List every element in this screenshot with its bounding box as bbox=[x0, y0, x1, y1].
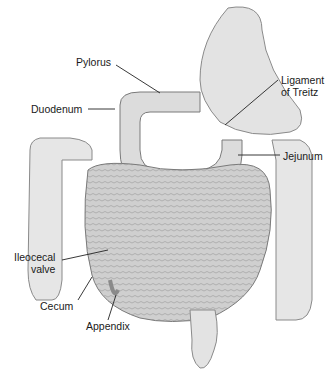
label-ligament-line2: of Treitz bbox=[281, 86, 324, 98]
label-ileocecal-valve: Ileocecal valve bbox=[14, 251, 55, 275]
label-duodenum: Duodenum bbox=[31, 103, 82, 115]
label-appendix: Appendix bbox=[86, 320, 130, 332]
stomach bbox=[200, 7, 302, 135]
label-pylorus: Pylorus bbox=[76, 56, 111, 68]
label-cecum: Cecum bbox=[40, 300, 73, 312]
anatomy-illustration bbox=[0, 0, 336, 375]
small-intestine bbox=[85, 163, 271, 321]
colon bbox=[28, 138, 92, 300]
label-ligament-line1: Ligament bbox=[281, 74, 324, 86]
label-jejunum: Jejunum bbox=[283, 150, 323, 162]
label-ileocecal-line1: Ileocecal bbox=[14, 251, 55, 263]
label-ligament-of-treitz: Ligament of Treitz bbox=[281, 74, 324, 98]
descending-colon bbox=[272, 140, 312, 320]
rectum bbox=[190, 310, 217, 368]
label-ileocecal-line2: valve bbox=[14, 263, 55, 275]
